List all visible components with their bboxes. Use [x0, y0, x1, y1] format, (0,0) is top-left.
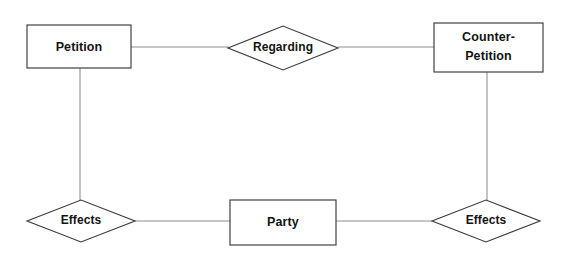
entity-party[interactable]: Party: [230, 200, 336, 245]
edge-group: [80, 47, 487, 221]
entity-petition-label: Petition: [56, 40, 103, 54]
relationship-effects-left[interactable]: Effects: [27, 200, 135, 242]
relationship-regarding[interactable]: Regarding: [228, 26, 338, 70]
er-diagram: Petition Counter- Petition Party Regardi…: [0, 0, 563, 257]
entity-counter-petition-label-line2: Petition: [465, 49, 512, 63]
relationship-effects-right[interactable]: Effects: [432, 200, 540, 242]
relationship-effects-right-label: Effects: [466, 213, 507, 227]
entity-counter-petition[interactable]: Counter- Petition: [434, 23, 543, 72]
entity-party-label: Party: [267, 215, 299, 229]
relationship-regarding-label: Regarding: [253, 40, 313, 54]
entity-petition[interactable]: Petition: [27, 25, 131, 68]
entity-counter-petition-label-line1: Counter-: [462, 30, 515, 44]
relationship-effects-left-label: Effects: [61, 213, 102, 227]
er-diagram-canvas: Petition Counter- Petition Party Regardi…: [0, 0, 563, 257]
